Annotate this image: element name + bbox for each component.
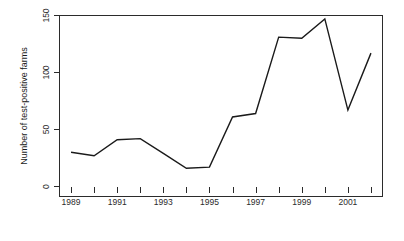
x-tick-label-1999: 1999 xyxy=(292,197,311,207)
chart-figure: 150 100 50 0 Number of test-positive far… xyxy=(0,0,404,241)
y-tick-label-150: 150 xyxy=(41,8,51,22)
y-tick-label-50: 50 xyxy=(41,125,51,135)
y-axis-title: Number of test-positive farms xyxy=(19,47,29,165)
x-tick-label-1989: 1989 xyxy=(62,197,81,207)
y-tick-label-100: 100 xyxy=(41,65,51,79)
y-tick-label-0: 0 xyxy=(41,184,51,189)
x-tick-label-1995: 1995 xyxy=(200,197,219,207)
line-chart-plot: 150 100 50 0 Number of test-positive far… xyxy=(0,0,404,241)
x-tick-label-1993: 1993 xyxy=(154,197,173,207)
x-tick-label-1997: 1997 xyxy=(246,197,265,207)
screenshot-root: 150 100 50 0 Number of test-positive far… xyxy=(0,0,404,241)
x-tick-label-1991: 1991 xyxy=(108,197,127,207)
x-tick-label-2001: 2001 xyxy=(338,197,357,207)
